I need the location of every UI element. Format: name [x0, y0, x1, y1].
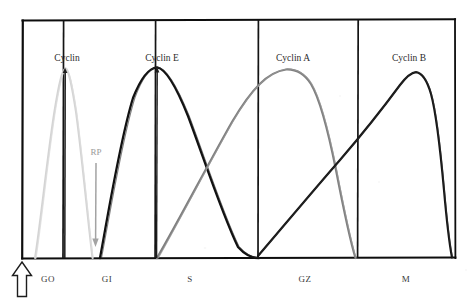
phase-label-g1: GI: [102, 274, 112, 284]
curve-label-cyclin-e: Cyclin E: [145, 53, 179, 63]
frame-top-border: [23, 19, 456, 20]
figure-background: [0, 0, 474, 308]
rp-label: RP: [90, 147, 101, 157]
frame-left-border: [22, 21, 23, 259]
cell-cycle-cyclin-diagram: RP Cyclin Cyclin E Cyclin A Cyclin B GO …: [0, 0, 474, 308]
leader-line-cyclin-e: [157, 69, 158, 258]
baseline-axis: [22, 258, 455, 259]
phase-label-g0: GO: [41, 274, 55, 284]
curve-label-cyclin-a: Cyclin A: [276, 53, 310, 63]
phase-label-g2: GZ: [299, 274, 312, 284]
curve-label-cyclin-b: Cyclin B: [392, 53, 426, 63]
curve-label-cyclin: Cyclin: [54, 53, 80, 63]
phase-label-m: M: [402, 274, 410, 284]
phase-label-s: S: [187, 274, 192, 284]
